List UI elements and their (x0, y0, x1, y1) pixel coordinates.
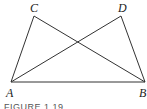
vertex-label-a: A (6, 87, 13, 99)
segment-bc (34, 16, 145, 82)
vertex-label-b: B (139, 87, 146, 99)
geometry-figure (0, 0, 147, 109)
vertex-label-d: D (118, 2, 127, 14)
figure-caption: FIGURE 1.19 (4, 102, 64, 109)
vertex-label-c: C (30, 2, 38, 14)
segment-bd (121, 16, 145, 82)
segment-ac (11, 16, 34, 82)
segment-ad (11, 16, 121, 82)
